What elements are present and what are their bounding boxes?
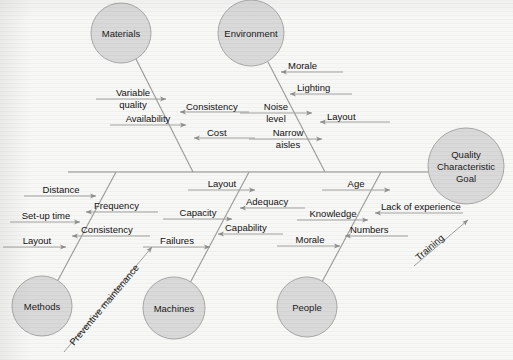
cause-label-people-numbers: Numbers [350,224,389,235]
node-labels-group: Materials Environment Methods Machines P… [24,28,496,314]
node-label-environment: Environment [224,28,278,39]
cause-label-materials-cost: Cost [207,127,227,138]
cause-label-people-knowledge: Knowledge [309,208,356,219]
cause-label-machines-layout: Layout [208,178,237,189]
cause-labels-machines: Layout Adequacy Capacity Capability Fail… [160,178,288,246]
cause-label-environment-noise-line2: level [266,113,286,124]
cause-label-people-lack-of-experience: Lack of experience [381,201,461,212]
node-label-methods: Methods [24,301,61,312]
diagonal-cause-labels: Preventive maintenance Training [67,232,446,347]
cause-label-materials-variable-quality-line2: quality [119,99,147,110]
cause-label-methods-setup-time: Set-up time [22,210,71,221]
fishbone-diagram-svg: Materials Environment Methods Machines P… [0,0,513,360]
cause-label-materials-consistency: Consistency [186,101,238,112]
node-circles-group [12,0,504,339]
cause-label-people-age: Age [348,178,365,189]
cause-labels-environment: Morale Lighting Noise level Layout Narro… [264,60,356,150]
cause-labels-methods: Distance Frequency Set-up time Consisten… [22,184,139,246]
cause-label-methods-consistency: Consistency [81,224,133,235]
category-bones-group [57,59,381,283]
cause-label-machines-capability: Capability [225,222,267,233]
node-label-goal-line2: Characteristic [437,161,495,172]
cause-label-environment-noise-line1: Noise [264,101,288,112]
cause-label-machines-failures: Failures [160,235,194,246]
cause-label-environment-narrow-line1: Narrow [273,127,304,138]
cause-label-training: Training [413,232,446,263]
node-label-goal-line1: Quality [451,149,481,160]
cause-label-materials-availability: Availability [126,113,171,124]
node-label-materials: Materials [102,28,141,39]
cause-label-environment-layout: Layout [327,111,356,122]
node-label-goal-line3: Goal [456,173,476,184]
cause-label-materials-variable-quality-line1: Variable [116,87,150,98]
cause-label-methods-distance: Distance [43,184,80,195]
cause-label-preventive-maintenance: Preventive maintenance [67,262,141,347]
node-label-machines: Machines [154,303,195,314]
fishbone-diagram-canvas: Materials Environment Methods Machines P… [0,0,513,360]
cause-label-environment-lighting: Lighting [297,82,330,93]
node-label-people: People [292,302,322,313]
cause-label-methods-frequency: Frequency [94,200,139,211]
cause-label-people-morale: Morale [295,234,324,245]
cause-label-methods-layout: Layout [23,235,52,246]
cause-label-machines-adequacy: Adequacy [246,196,289,207]
cause-label-machines-capacity: Capacity [180,207,217,218]
cause-label-environment-narrow-line2: aisles [276,139,301,150]
cause-label-environment-morale: Morale [288,60,317,71]
